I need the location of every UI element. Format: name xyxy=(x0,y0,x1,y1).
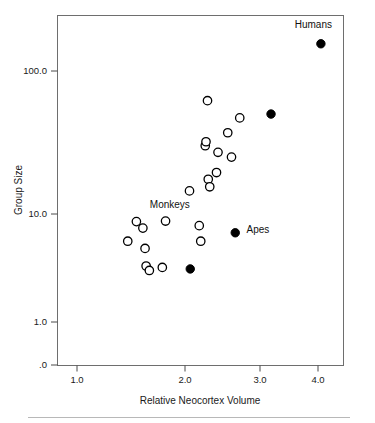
data-point-open-0-20 xyxy=(236,114,244,122)
data-point-open-0-15 xyxy=(206,183,214,191)
y-axis-ticks: 100.010.01.0.0 xyxy=(23,65,57,370)
annotation-humans: Humans xyxy=(295,19,332,30)
scatter-plot-figure: 100.010.01.0.0 1.02.03.04.0 HumansMonkey… xyxy=(0,0,375,423)
data-point-open-0-3 xyxy=(141,244,149,252)
data-point-open-0-18 xyxy=(224,129,232,137)
y-tick-label-0: 100.0 xyxy=(23,65,47,76)
y-tick-label-2: 1.0 xyxy=(34,316,47,327)
x-tick-label-2: 3.0 xyxy=(253,374,266,385)
data-point-open-0-17 xyxy=(214,148,222,156)
data-point-filled-1-3 xyxy=(317,40,325,48)
series-apes-and-humans xyxy=(186,40,325,274)
data-point-open-0-5 xyxy=(145,266,153,274)
data-point-open-0-16 xyxy=(212,168,220,176)
data-point-filled-1-0 xyxy=(186,265,194,273)
data-point-open-0-6 xyxy=(158,263,166,271)
data-point-open-0-19 xyxy=(227,153,235,161)
y-tick-label-1: 10.0 xyxy=(29,208,48,219)
x-tick-label-3: 4.0 xyxy=(311,374,324,385)
data-point-open-0-2 xyxy=(139,224,147,232)
x-tick-label-0: 1.0 xyxy=(70,374,83,385)
data-point-open-0-7 xyxy=(161,217,169,225)
data-point-open-0-1 xyxy=(132,217,140,225)
plot-canvas: 100.010.01.0.0 1.02.03.04.0 HumansMonkey… xyxy=(0,0,375,423)
annotation-apes: Apes xyxy=(247,224,270,235)
annotation-layer: HumansMonkeysApes xyxy=(150,19,332,235)
data-point-open-0-13 xyxy=(203,96,211,104)
x-axis-title: Relative Neocortex Volume xyxy=(140,395,261,406)
x-axis-ticks: 1.02.03.04.0 xyxy=(70,366,324,386)
data-point-open-0-9 xyxy=(195,221,203,229)
data-point-open-0-0 xyxy=(124,237,132,245)
y-axis-title: Group Size xyxy=(13,165,24,215)
data-points-layer xyxy=(124,40,326,275)
data-point-filled-1-1 xyxy=(231,229,239,237)
y-tick-label-3: .0 xyxy=(39,359,47,370)
plot-frame xyxy=(58,16,344,366)
data-point-open-0-8 xyxy=(185,187,193,195)
data-point-open-0-10 xyxy=(197,237,205,245)
annotation-monkeys: Monkeys xyxy=(150,199,190,210)
series-monkeys xyxy=(124,96,244,274)
x-tick-label-1: 2.0 xyxy=(178,374,191,385)
data-point-open-0-12 xyxy=(202,138,210,146)
data-point-filled-1-2 xyxy=(267,110,275,118)
